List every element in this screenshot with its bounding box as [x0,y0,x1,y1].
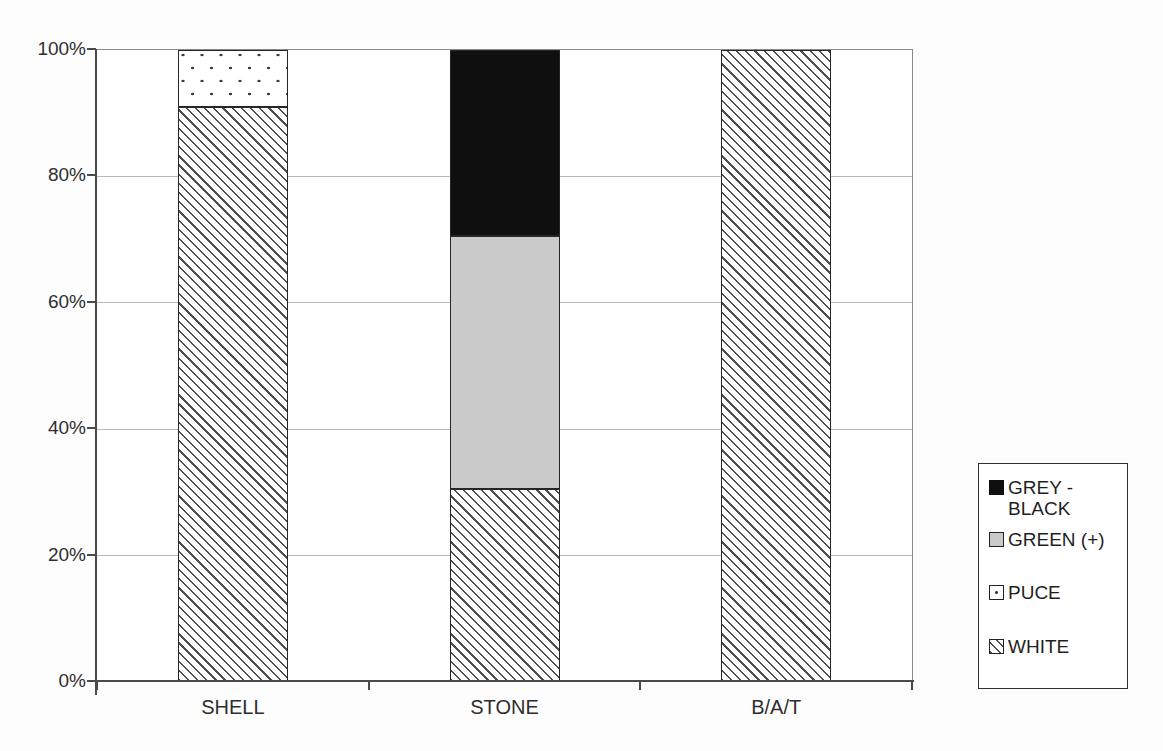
chart-page: GREY - BLACK GREEN (+) PUCE WHITE 0%20%4… [0,0,1163,751]
y-axis-label-80: 80% [16,164,86,186]
bar-segment-shell-puce [178,50,288,107]
y-axis-tick-100 [87,48,96,50]
bar-segment-stone-grey-black [450,50,560,236]
y-axis-tick-80 [87,174,96,176]
x-axis-tick-1 [368,681,370,690]
y-axis-tick-60 [87,301,96,303]
legend-item-green: GREEN (+) [989,529,1123,550]
legend-label-puce: PUCE [1008,582,1061,603]
legend-swatch-grey-black [989,480,1004,495]
y-axis-label-20: 20% [16,544,86,566]
bar-segment-b-a-t-white [721,50,831,682]
x-axis-label-stone: STONE [435,696,575,719]
legend-item-white: WHITE [989,636,1123,657]
y-axis-tick-0 [87,680,96,682]
bar-shell [178,50,288,682]
bar-segment-stone-white [450,489,560,682]
y-axis-label-100: 100% [16,38,86,60]
legend-swatch-green [989,532,1004,547]
x-axis-tick-3 [911,681,913,690]
plot-area [97,49,913,682]
legend-swatch-puce [989,585,1004,600]
x-axis-line [95,680,914,682]
y-axis-line [95,49,97,695]
y-axis-label-40: 40% [16,417,86,439]
legend-swatch-white [989,639,1004,654]
legend-item-puce: PUCE [989,582,1123,603]
legend-label-green: GREEN (+) [1008,529,1105,550]
bar-stone [450,50,560,682]
y-axis-tick-20 [87,554,96,556]
x-axis-tick-2 [639,681,641,690]
legend-label-white: WHITE [1008,636,1069,657]
legend-label-grey-black: GREY - BLACK [1008,477,1123,519]
x-axis-tick-0 [96,681,98,690]
x-axis-label-b-a-t: B/A/T [706,696,846,719]
y-axis-tick-40 [87,427,96,429]
legend-item-grey-black: GREY - BLACK [989,477,1123,519]
y-axis-label-60: 60% [16,291,86,313]
bar-segment-shell-white [178,107,288,682]
y-axis-label-0: 0% [16,670,86,692]
bar-b-a-t [721,50,831,682]
x-axis-label-shell: SHELL [163,696,303,719]
bar-segment-stone-green [450,236,560,489]
legend-box: GREY - BLACK GREEN (+) PUCE WHITE [978,463,1128,689]
